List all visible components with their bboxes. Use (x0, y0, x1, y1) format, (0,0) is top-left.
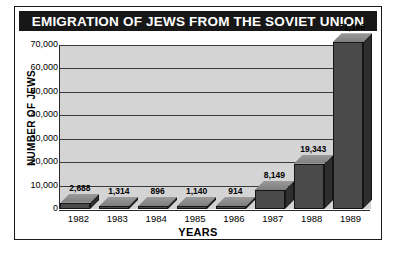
bar-front-face (99, 206, 129, 209)
x-axis-title: YEARS (15, 226, 381, 238)
bar-1985 (177, 197, 216, 209)
bar-side-face (324, 155, 333, 209)
bar-1987 (255, 181, 294, 209)
bar-front-face (60, 203, 90, 209)
bar-1984 (138, 197, 177, 209)
y-axis-tick-label: 70,000 (0, 39, 58, 49)
bar-front-face (177, 206, 207, 209)
x-axis-tick-label: 1982 (59, 213, 98, 224)
bar-1986 (216, 197, 255, 209)
chart-frame: EMIGRATION OF JEWS FROM THE SOVIET UNION… (14, 6, 382, 240)
y-axis-tick-label: 10,000 (0, 180, 58, 190)
bar-1989 (333, 33, 372, 209)
y-axis-tick-label: 30,000 (0, 133, 58, 143)
bar-side-face (363, 33, 372, 209)
bar-1983 (99, 197, 138, 209)
x-axis-tick-label: 1986 (215, 213, 254, 224)
x-axis-tick-label: 1985 (176, 213, 215, 224)
bar-1988 (294, 155, 333, 209)
chart-title: EMIGRATION OF JEWS FROM THE SOVIET UNION (32, 14, 365, 29)
bar-front-face (216, 206, 246, 209)
x-axis-tick-label: 1989 (331, 213, 370, 224)
bars-container: 2,6881,3148961,1409148,14919,34371,196 (59, 45, 370, 209)
bar-1982 (60, 194, 99, 209)
bar-value-label: 19,343 (288, 144, 339, 154)
y-axis-tick-label: 20,000 (0, 156, 58, 166)
chart-title-bar: EMIGRATION OF JEWS FROM THE SOVIET UNION (19, 11, 377, 31)
bar-front-face (255, 190, 285, 209)
y-axis-tick-label: 0 (0, 203, 58, 213)
y-axis-tick-label: 60,000 (0, 62, 58, 72)
bar-front-face (333, 42, 363, 209)
y-axis-tick-label: 50,000 (0, 86, 58, 96)
bar-front-face (294, 164, 324, 209)
bar-value-label: 914 (210, 186, 261, 196)
x-axis-tick-label: 1983 (98, 213, 137, 224)
bar-value-label: 8,149 (249, 170, 300, 180)
bar-value-label: 71,196 (327, 22, 378, 32)
x-axis-tick-label: 1988 (292, 213, 331, 224)
x-axis-tick-label: 1984 (137, 213, 176, 224)
y-axis-tick-label: 40,000 (0, 109, 58, 119)
x-axis-tick-label: 1987 (253, 213, 292, 224)
bar-front-face (138, 206, 168, 209)
x-axis-line (59, 210, 370, 211)
